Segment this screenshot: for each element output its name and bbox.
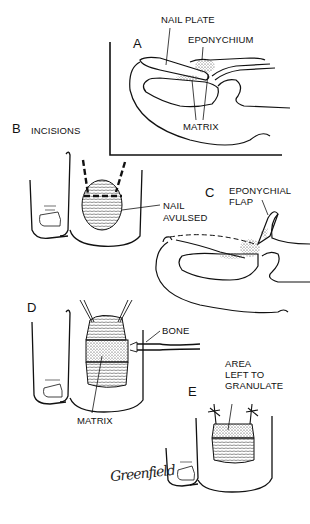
label-matrix-a: MATRIX [183, 121, 219, 132]
label-nail-plate: NAIL PLATE [161, 14, 215, 25]
label-incisions: INCISIONS [31, 125, 80, 136]
panel-e-letter: E [188, 384, 197, 399]
label-matrix-d: MATRIX [77, 415, 113, 426]
panel-d-letter: D [27, 300, 36, 315]
label-eponychial-flap-line2: FLAP [229, 196, 253, 207]
panel-c-section [156, 212, 310, 313]
label-area-line2: LEFT TO [225, 369, 264, 380]
panel-c-leader [262, 200, 268, 215]
panel-e-sutures [208, 404, 258, 424]
label-eponychium: EPONYCHIUM [188, 34, 253, 45]
label-eponychial-flap-line1: EPONYCHIAL [229, 185, 291, 196]
panel-a-frame [110, 42, 282, 155]
label-nail-avulsed-line1: NAIL [163, 200, 185, 211]
label-bone: BONE [162, 325, 189, 336]
panel-b-letter: B [12, 121, 21, 136]
surgical-nail-diagram: A B C D E NAIL PLATE EPONYCHIUM MATRIX I… [0, 0, 310, 524]
panel-e-granulation [212, 424, 254, 463]
label-nail-avulsed-line2: AVULSED [163, 212, 207, 223]
panel-a-letter: A [133, 36, 142, 51]
panel-d-wound [86, 315, 128, 387]
panel-c-letter: C [205, 185, 214, 200]
label-area-line1: AREA [225, 358, 251, 369]
line-art [0, 0, 310, 524]
panel-c-stipple [220, 228, 268, 259]
label-area-line3: GRANULATE [225, 380, 283, 391]
